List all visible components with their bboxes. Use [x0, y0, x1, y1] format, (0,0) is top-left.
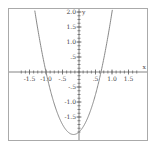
x-tick-label: -1.0: [40, 75, 52, 82]
x-tick-label: 1.5: [124, 75, 134, 82]
y-tick-label: .5: [70, 53, 76, 60]
y-axis-label: y: [81, 8, 86, 16]
x-tick-label: -1.5: [24, 75, 36, 82]
y-tick-label: 2.0: [66, 8, 76, 15]
y-tick-label: 1.5: [66, 23, 76, 30]
plot-area: -1.5-1.0-.5.51.01.52.01.51.0.5-.5-1.0-1.…: [0, 0, 152, 147]
y-tick-label: -1.0: [64, 98, 76, 105]
x-tick-label: 1.0: [107, 75, 117, 82]
x-tick-label: -.5: [59, 75, 67, 82]
y-tick-label: -.5: [68, 83, 76, 90]
y-tick-label: 1.0: [66, 38, 76, 45]
y-tick-label: -1.5: [64, 113, 76, 120]
x-tick-label: .5: [93, 75, 99, 82]
